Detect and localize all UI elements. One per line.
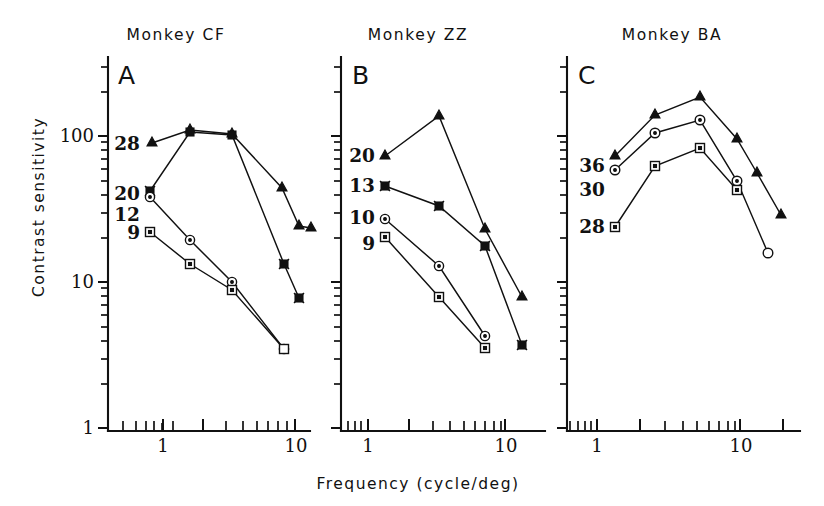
panel-c-series-36: [610, 91, 786, 218]
panel-a-series-9: [146, 228, 289, 354]
panel-b-curve-label-10: 10: [349, 207, 375, 228]
panel-a-y-ticks: [98, 67, 108, 428]
panel-b-series-20: [380, 110, 527, 300]
panel-c-curve-label-36: 36: [579, 155, 605, 176]
panel-a-y-tick-10: 10: [71, 271, 94, 292]
panel-c-y-ticks: [557, 67, 567, 428]
panel-b-y-ticks: [331, 67, 341, 428]
panel-a-series-20: [145, 128, 304, 303]
panel-a-y-tick-100: 100: [60, 125, 94, 146]
panel-a: Monkey CF A: [60, 26, 316, 456]
panel-a-title: Monkey CF: [127, 26, 226, 44]
panel-b: Monkey ZZ B: [331, 26, 545, 456]
panel-b-title: Monkey ZZ: [368, 26, 468, 44]
panel-b-series-10: [380, 214, 489, 340]
panel-a-y-tick-1: 1: [83, 417, 94, 438]
panel-a-series-28: [147, 124, 316, 231]
panel-a-curve-label-28: 28: [114, 133, 140, 154]
panel-c: Monkey BA C: [557, 26, 800, 456]
x-axis-title: Frequency (cycle/deg): [316, 475, 519, 493]
panel-a-x-ticks: [123, 419, 295, 431]
panel-b-curve-label-20: 20: [349, 145, 375, 166]
panel-c-letter: C: [578, 61, 595, 90]
panel-a-x-tick-1: 1: [157, 435, 168, 456]
panel-b-curve-label-13: 13: [349, 175, 375, 196]
panel-a-curve-label-20: 20: [114, 183, 140, 204]
panel-a-letter: A: [118, 61, 135, 90]
panel-c-x-ticks: [570, 419, 783, 431]
panel-c-x-tick-10: 10: [730, 435, 753, 456]
panel-c-curve-label-30: 30: [579, 179, 605, 200]
panel-c-x-tick-1: 1: [591, 435, 602, 456]
panel-b-x-tick-10: 10: [495, 435, 518, 456]
chart-svg: Contrast sensitivity Monkey CF A: [0, 0, 824, 506]
figure-container: Contrast sensitivity Monkey CF A: [0, 0, 824, 506]
panel-b-curve-label-9: 9: [362, 233, 375, 254]
panel-b-x-ticks: [348, 419, 505, 431]
panel-b-letter: B: [352, 61, 369, 90]
panel-c-curve-label-28: 28: [579, 216, 605, 237]
panel-a-curve-label-9: 9: [127, 222, 140, 243]
panel-c-title: Monkey BA: [622, 26, 722, 44]
panel-a-x-tick-10: 10: [285, 435, 308, 456]
panel-b-series-9: [381, 233, 490, 353]
panel-b-x-tick-1: 1: [362, 435, 373, 456]
y-axis-title: Contrast sensitivity: [30, 117, 48, 297]
